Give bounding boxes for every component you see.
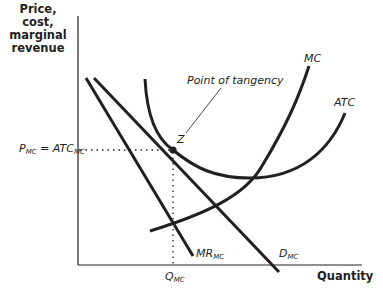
quantity-subscript: MC (174, 276, 185, 284)
atc-equals: = ATC (37, 142, 74, 155)
mr-subscript: MC (213, 253, 224, 261)
quantity-level-label: QMC (165, 270, 185, 284)
mc-curve-label: MC (304, 52, 321, 65)
y-axis-label: Price, cost, marginal revenue (6, 3, 70, 55)
atc-subscript: MC (74, 148, 85, 156)
point-z-label: Z (177, 133, 185, 146)
price-symbol: P (19, 142, 26, 155)
x-axis-label: Quantity (317, 269, 373, 283)
tangency-leader-line (186, 88, 221, 133)
mr-symbol: MR (196, 247, 213, 260)
monopolistic-competition-diagram: Price, cost, marginal revenue Quantity P… (0, 0, 383, 299)
mr-curve-label: MRMC (196, 247, 224, 261)
atc-curve-label: ATC (334, 96, 355, 109)
price-subscript: MC (26, 148, 37, 156)
demand-subscript: MC (287, 253, 298, 261)
tangency-label: Point of tangency (187, 74, 284, 87)
price-level-label: PMC = ATCMC (19, 142, 85, 156)
tangency-point-z (169, 146, 176, 153)
demand-curve-label: DMC (279, 247, 298, 261)
quantity-symbol: Q (165, 270, 174, 283)
y-axis-label-line: revenue (6, 42, 70, 55)
